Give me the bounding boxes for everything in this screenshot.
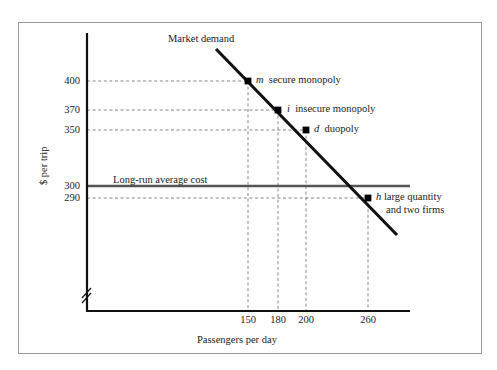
marker-m[interactable]: [245, 78, 252, 85]
point-label-m: m secure monopoly: [256, 74, 341, 87]
lrac-label: Long-run average cost: [113, 174, 207, 186]
xtick-label-150: 150: [231, 314, 265, 325]
xtick-label-200: 200: [289, 314, 323, 325]
x-axis-title: Passengers per day: [197, 334, 277, 345]
xtick-label-260: 260: [351, 314, 385, 325]
point-text-m: secure monopoly: [269, 74, 341, 85]
figure-container: 400 370 350 300 290 150 180 200 260 $ pe…: [0, 0, 497, 370]
point-label-d: d duopoly: [314, 123, 359, 136]
point-text-h-line1: large quantity: [384, 191, 442, 202]
ytick-label-370: 370: [50, 104, 80, 115]
point-letter-i: i: [287, 103, 290, 114]
point-letter-d: d: [314, 123, 319, 134]
y-axis-title: $ per trip: [38, 147, 49, 186]
marker-i[interactable]: [275, 107, 282, 114]
ytick-label-350: 350: [50, 124, 80, 135]
marker-d[interactable]: [303, 127, 310, 134]
ytick-label-300: 300: [50, 180, 80, 191]
point-text-h-line2: and two firms: [376, 204, 444, 217]
ytick-label-400: 400: [50, 75, 80, 86]
point-label-h: h large quantity and two firms: [376, 191, 444, 217]
point-label-i: i insecure monopoly: [287, 103, 375, 116]
marker-h[interactable]: [365, 195, 372, 202]
market-demand-label: Market demand: [168, 33, 234, 45]
point-letter-h: h: [376, 191, 381, 202]
point-text-i: insecure monopoly: [295, 103, 375, 114]
point-letter-m: m: [256, 74, 264, 85]
point-text-d: duopoly: [325, 123, 359, 134]
ytick-label-290: 290: [50, 192, 80, 203]
